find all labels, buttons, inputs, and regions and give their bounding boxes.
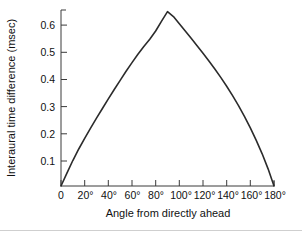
y-axis-ticks	[61, 25, 67, 161]
data-curve	[61, 12, 274, 186]
x-tick-label: 180°	[264, 189, 286, 201]
y-tick-label: 0.2	[40, 128, 55, 140]
y-axis-title: Interaural time difference (msec)	[5, 19, 17, 177]
x-tick-label: 160°	[241, 189, 263, 201]
y-tick-label: 0.5	[40, 46, 55, 58]
y-tick-label: 0.6	[40, 19, 55, 31]
x-axis-tick-labels: 0 20° 40° 60° 80° 100° 120° 140° 160° 18…	[58, 189, 286, 201]
x-tick-label: 100°	[170, 189, 192, 201]
x-tick-label: 0	[58, 189, 64, 201]
interaural-time-difference-chart: 0.6 0.5 0.4 0.3 0.2 0.1 0 20° 40° 60° 80…	[0, 0, 302, 233]
x-tick-label: 20°	[78, 189, 94, 201]
chart-figure: 0.6 0.5 0.4 0.3 0.2 0.1 0 20° 40° 60° 80…	[0, 0, 302, 233]
x-axis-line	[61, 181, 274, 186]
y-tick-label: 0.3	[40, 101, 55, 113]
y-tick-label: 0.4	[40, 73, 55, 85]
x-tick-label: 140°	[217, 189, 239, 201]
x-tick-label: 120°	[194, 189, 216, 201]
x-axis-ticks	[61, 180, 274, 186]
y-axis-line	[61, 10, 66, 186]
y-tick-label: 0.1	[40, 155, 55, 167]
x-tick-label: 60°	[125, 189, 141, 201]
x-tick-label: 40°	[101, 189, 117, 201]
x-tick-label: 80°	[148, 189, 164, 201]
y-axis-tick-labels: 0.6 0.5 0.4 0.3 0.2 0.1	[40, 19, 55, 167]
x-axis-title: Angle from directly ahead	[106, 207, 231, 219]
